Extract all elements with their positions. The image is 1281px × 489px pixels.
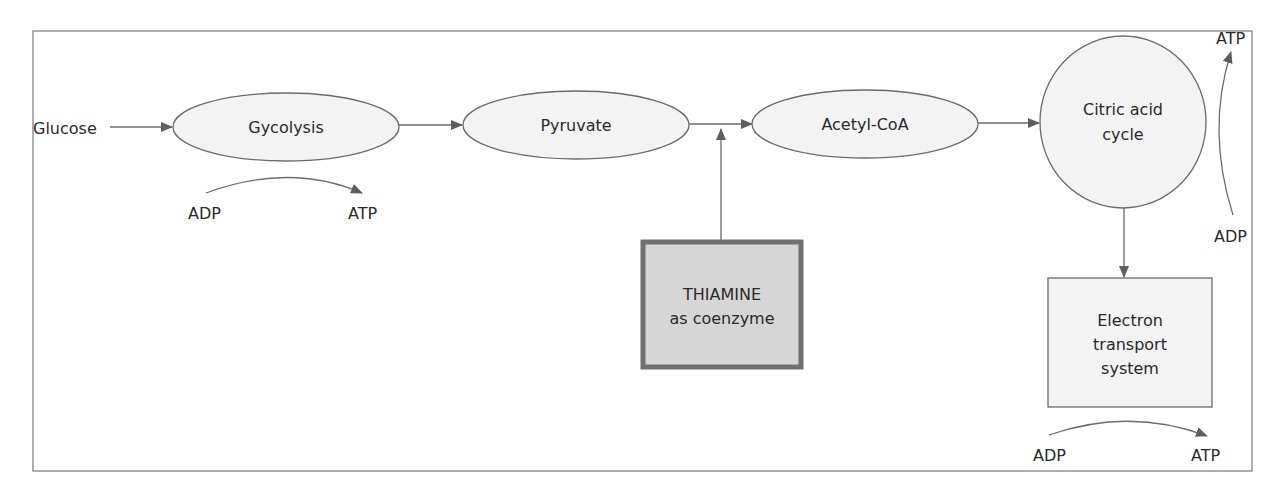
glycolysis-label: Gycolysis (248, 118, 323, 137)
atp-label-bottom: ATP (1191, 446, 1220, 465)
glucose-label: Glucose (33, 119, 97, 138)
acetyl-coa-label: Acetyl-CoA (821, 115, 908, 134)
pyruvate-node: Pyruvate (463, 91, 689, 159)
electron-transport-label-line3: system (1101, 359, 1159, 378)
adp-to-atp-arrow-vertical (1219, 52, 1233, 215)
adp-to-atp-arrow-bottom (1049, 421, 1207, 436)
atp-label-top: ATP (1216, 29, 1245, 48)
atp-label: ATP (348, 204, 377, 223)
electron-transport-energy-conversion: ADP ATP (1033, 421, 1220, 465)
adp-to-atp-arrow (206, 178, 362, 194)
citric-acid-label-line2: cycle (1102, 125, 1143, 144)
glycolysis-energy-conversion: ADP ATP (188, 178, 377, 224)
acetyl-coa-node: Acetyl-CoA (752, 90, 978, 158)
adp-label-right: ADP (1214, 227, 1247, 246)
electron-transport-node: Electron transport system (1048, 278, 1212, 407)
citric-acid-label-line1: Citric acid (1083, 100, 1163, 119)
citric-acid-cycle-node: Citric acid cycle (1040, 36, 1206, 208)
adp-label: ADP (188, 204, 221, 223)
thiamine-label-line2: as coenzyme (669, 309, 774, 328)
adp-label-bottom: ADP (1033, 446, 1066, 465)
glycolysis-node: Gycolysis (173, 93, 399, 161)
electron-transport-label-line1: Electron (1097, 311, 1163, 330)
metabolic-pathway-diagram: Glucose Gycolysis ADP ATP Pyruvate Acety… (0, 0, 1281, 489)
pyruvate-label: Pyruvate (540, 116, 611, 135)
electron-transport-label-line2: transport (1093, 335, 1167, 354)
thiamine-label-line1: THIAMINE (682, 285, 761, 304)
thiamine-coenzyme-node: THIAMINE as coenzyme (643, 242, 801, 367)
citric-acid-energy-conversion: ATP ADP (1214, 29, 1247, 246)
